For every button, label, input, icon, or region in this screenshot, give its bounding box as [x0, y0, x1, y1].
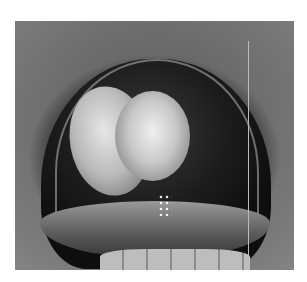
lower-teeth	[100, 249, 250, 270]
probe-line	[248, 41, 249, 256]
clinical-photo	[15, 21, 294, 270]
palatal-swelling-center	[115, 91, 190, 181]
tongue	[40, 201, 270, 256]
light-reflection	[158, 194, 172, 216]
